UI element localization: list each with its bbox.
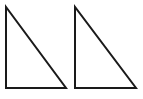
triangles-diagram xyxy=(0,0,143,99)
figure-canvas xyxy=(0,0,143,99)
diagram-background xyxy=(0,0,143,99)
